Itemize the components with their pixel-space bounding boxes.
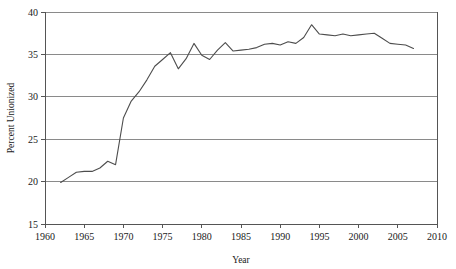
x-tick-label-1970: 1970 xyxy=(113,231,133,242)
x-tick-label-1975: 1975 xyxy=(153,231,173,242)
x-tick-label-1985: 1985 xyxy=(231,231,251,242)
y-tick-label-40: 40 xyxy=(28,7,38,18)
y-tick-label-25: 25 xyxy=(28,134,38,145)
x-tick-label-1960: 1960 xyxy=(35,231,55,242)
x-tick-label-2000: 2000 xyxy=(349,231,369,242)
x-axis-title: Year xyxy=(232,255,250,265)
x-tick-label-1965: 1965 xyxy=(74,231,94,242)
y-tick-label-20: 20 xyxy=(28,176,38,187)
y-tick-label-35: 35 xyxy=(28,49,38,60)
x-tick-label-1995: 1995 xyxy=(309,231,329,242)
y-tick-marks xyxy=(41,12,45,224)
x-tick-label-1990: 1990 xyxy=(270,231,290,242)
x-tick-label-2010: 2010 xyxy=(427,231,447,242)
y-tick-label-30: 30 xyxy=(28,91,38,102)
plot-frame xyxy=(45,12,437,224)
data-series-line xyxy=(61,25,414,183)
y-tick-labels: 152025303540 xyxy=(28,7,38,230)
x-tick-label-1980: 1980 xyxy=(192,231,212,242)
x-tick-labels: 1960196519701975198019851990199520002005… xyxy=(35,231,447,242)
x-tick-marks xyxy=(45,224,437,228)
gridlines xyxy=(45,12,437,182)
y-axis-title: Percent Unionized xyxy=(6,83,16,154)
y-tick-label-15: 15 xyxy=(28,219,38,230)
chart-container: 152025303540 196019651970197519801985199… xyxy=(0,0,456,269)
line-chart-plot: 152025303540 196019651970197519801985199… xyxy=(0,0,456,269)
x-tick-label-2005: 2005 xyxy=(388,231,408,242)
